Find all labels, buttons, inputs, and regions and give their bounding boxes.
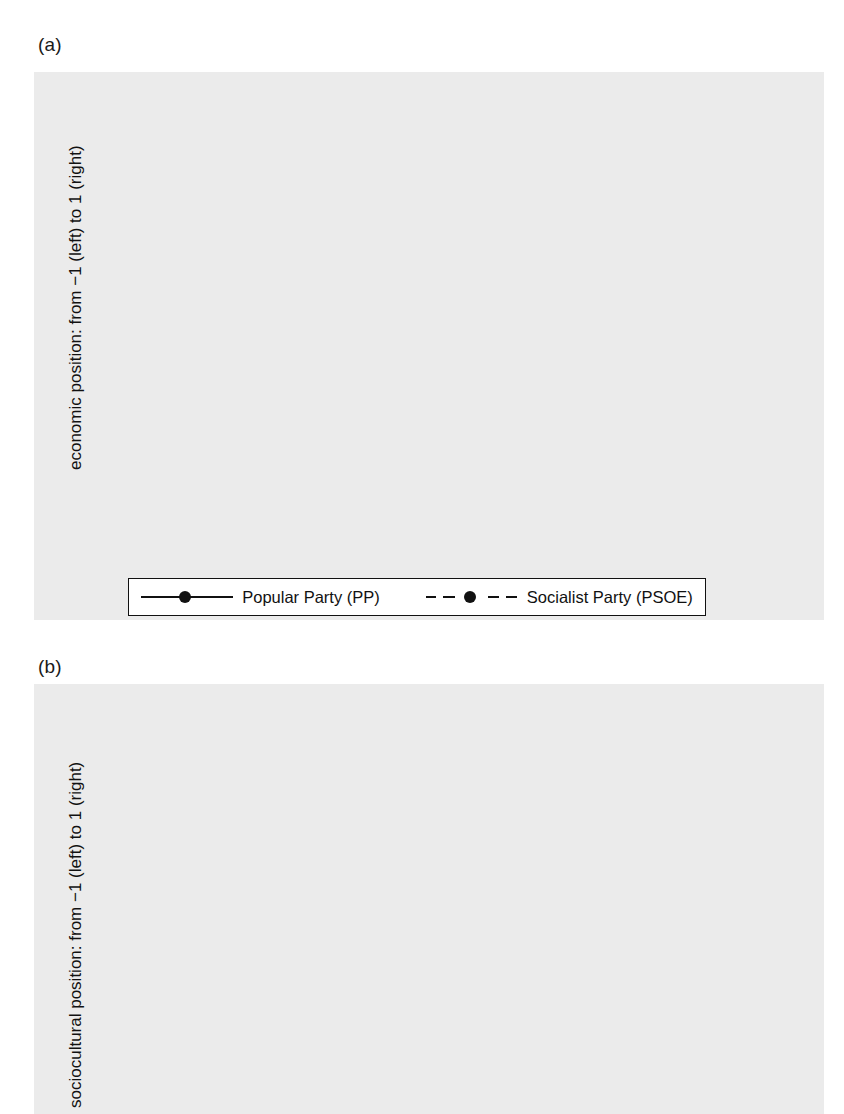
panel-a-label: (a) — [38, 34, 62, 56]
panel-b-paper-background — [34, 684, 824, 1114]
panel-a-y-axis-title: economic position: from −1 (left) to 1 (… — [66, 145, 86, 470]
panel-a-paper-background — [34, 72, 824, 620]
legend-entry-pp: Popular Party (PP) — [141, 588, 380, 607]
panel-b-y-axis-title: sociocultural position: from −1 (left) t… — [66, 762, 86, 1108]
legend-entry-psoe: Socialist Party (PSOE) — [426, 588, 693, 607]
panel-b: (b) sociocultural position: from −1 (lef… — [0, 628, 844, 1114]
legend-line-sample-solid — [141, 590, 233, 604]
legend-label-pp: Popular Party (PP) — [242, 588, 380, 607]
panel-b-label: (b) — [38, 656, 62, 678]
legend: Popular Party (PP) Socialist Party (PSOE… — [128, 578, 706, 616]
legend-label-psoe: Socialist Party (PSOE) — [527, 588, 693, 607]
figure-page: (a) economic position: from −1 (left) to… — [0, 0, 844, 1114]
legend-marker-icon — [179, 591, 191, 603]
legend-line-sample-dashed — [426, 590, 518, 604]
panel-a: (a) economic position: from −1 (left) to… — [0, 0, 844, 628]
legend-marker-icon — [464, 591, 476, 603]
